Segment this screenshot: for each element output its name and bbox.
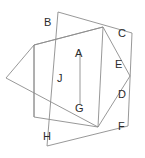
label-H: H [43,131,51,142]
label-G: G [75,103,84,114]
geometry-figure: BCAEJDGFH [0,0,145,158]
label-J: J [57,73,63,84]
label-E: E [115,59,122,70]
polygon-group [6,12,132,146]
pentagon [6,27,130,127]
label-F: F [118,121,125,132]
label-A: A [75,48,82,59]
label-B: B [44,17,51,28]
label-C: C [118,28,126,39]
label-D: D [118,89,126,100]
figure-canvas [0,0,145,158]
inner-quadrilateral [34,27,103,127]
